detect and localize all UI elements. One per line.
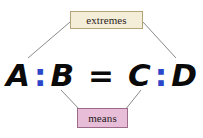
connector-extremes-to-d: [143, 22, 176, 58]
term-d: D: [171, 60, 197, 91]
means-label-box: means: [77, 108, 128, 128]
connector-extremes-to-a: [28, 22, 70, 58]
ratio-colon-right: :: [151, 60, 171, 91]
proportion-equation: A : B = C : D: [0, 55, 203, 95]
term-c: C: [128, 60, 151, 91]
term-b: B: [50, 60, 74, 91]
term-a: A: [6, 60, 30, 91]
means-label-text: means: [88, 113, 117, 124]
proportion-diagram: extremes A : B = C : D means: [0, 0, 203, 138]
extremes-label-box: extremes: [70, 11, 143, 29]
equals-sign: =: [88, 60, 114, 91]
ratio-colon-left: :: [30, 60, 50, 91]
extremes-label-text: extremes: [86, 15, 127, 26]
